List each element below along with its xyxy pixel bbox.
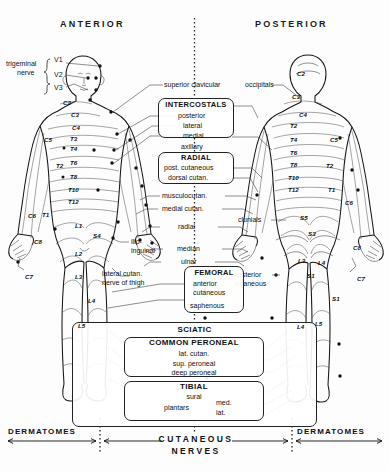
intercostals-title: INTERCOSTALS bbox=[162, 100, 230, 109]
dermatome-label-posterior-t12-8: T12 bbox=[288, 186, 299, 193]
intercostals-medial: medial bbox=[183, 132, 204, 140]
nerve-of-thigh-label: nerve of thigh bbox=[102, 279, 144, 287]
trigeminal-nerve-label-line2: nerve bbox=[17, 69, 35, 77]
dermatome-label-anterior-l4-19: L4 bbox=[88, 297, 95, 304]
dermatome-label-posterior-c3-1: C3 bbox=[292, 93, 300, 100]
dermatome-label-anterior-t4-4: T4 bbox=[70, 145, 77, 152]
dermatome-label-anterior-c5-9: C5 bbox=[44, 136, 52, 143]
common-peroneal-sup-peroneal: sup. peroneal bbox=[124, 360, 264, 368]
footer-dermatomes-right: DERMATOMES bbox=[297, 427, 365, 436]
radial-title: RADIAL bbox=[162, 153, 230, 162]
dermatome-label-posterior-t1-11: T1 bbox=[328, 186, 335, 193]
common-peroneal-deep-peroneal: deep peroneal bbox=[124, 369, 264, 377]
dermatome-cutaneous-nerve-diagram: ANTERIOR POSTERIOR trigeminal nerve V1 V… bbox=[0, 0, 389, 471]
dermatome-label-posterior-l5-20: L5 bbox=[315, 320, 322, 327]
trigeminal-nerve-label-line1: trigeminal bbox=[6, 60, 36, 68]
occipitals-label: occipitals bbox=[245, 81, 274, 89]
dermatome-label-anterior-t10-7: T10 bbox=[68, 186, 79, 193]
inguinal-label: inguinal bbox=[131, 247, 155, 255]
radial-dorsal-cutan: dorsal cutan. bbox=[168, 174, 208, 182]
trigeminal-branch-v1: V1 bbox=[54, 56, 63, 64]
dermatome-label-posterior-s1-18: S1 bbox=[307, 272, 315, 279]
dermatome-label-posterior-c5-9: C5 bbox=[330, 136, 338, 143]
dermatome-label-anterior-c2-0: C2 bbox=[63, 99, 71, 106]
dermatome-label-anterior-t8-6: T8 bbox=[70, 173, 77, 180]
dermatome-label-posterior-t10-7: T10 bbox=[288, 174, 299, 181]
dermatome-label-anterior-c7-14: C7 bbox=[25, 273, 33, 280]
clunials-label: clunials bbox=[238, 216, 261, 224]
dermatome-label-anterior-c6-11: C6 bbox=[28, 212, 36, 219]
dermatome-label-posterior-c7-14: C7 bbox=[357, 275, 365, 282]
footer-cutaneous-line2: NERVES bbox=[104, 446, 288, 457]
femoral-title: FEMORAL bbox=[186, 268, 242, 277]
femoral-anterior: anterior bbox=[193, 280, 217, 288]
dermatome-label-anterior-t6-5: T6 bbox=[70, 159, 77, 166]
tibial-title: TIBIAL bbox=[124, 382, 264, 391]
femoral-saphenous: saphenous bbox=[190, 302, 224, 310]
radial-nerve-label: radial bbox=[178, 223, 195, 231]
footer-dermatomes-left: DERMATOMES bbox=[8, 427, 76, 436]
dermatome-label-posterior-t2-10: T2 bbox=[326, 162, 333, 169]
trigeminal-branch-v2: V2 bbox=[54, 71, 63, 79]
dermatome-label-posterior-l3-17: L3 bbox=[298, 257, 305, 264]
dermatome-label-posterior-l4-19: L4 bbox=[318, 259, 325, 266]
dermatome-label-posterior-c2-0: C2 bbox=[297, 70, 305, 77]
dermatome-label-posterior-t2-3: T2 bbox=[290, 122, 297, 129]
ilio-label: ilio- bbox=[131, 238, 142, 246]
dermatome-label-anterior-l5-20: L5 bbox=[78, 322, 85, 329]
intercostals-lateral: lateral bbox=[183, 122, 202, 130]
axillary-label: axillary bbox=[181, 143, 203, 151]
dermatome-label-anterior-l2-17: L2 bbox=[75, 250, 82, 257]
dermatome-label-anterior-t1-12: T1 bbox=[42, 211, 49, 218]
dermatome-label-posterior-c4-2: C4 bbox=[299, 111, 307, 118]
dermatome-label-posterior-t8-6: T8 bbox=[290, 161, 297, 168]
dermatome-label-anterior-l1-15: L1 bbox=[75, 222, 82, 229]
sciatic-title: SCIATIC bbox=[72, 325, 317, 334]
musculocutan-label: musculocutan. bbox=[162, 192, 207, 200]
superior-clavicular-label: superior clavicular bbox=[164, 81, 220, 89]
dermatome-label-anterior-c3-1: C3 bbox=[71, 111, 79, 118]
dermatome-label-anterior-t3-3: T3 bbox=[70, 135, 77, 142]
dermatome-label-posterior-s1-22: S1 bbox=[332, 295, 340, 302]
plantars-med: med. bbox=[216, 399, 232, 407]
header-anterior: ANTERIOR bbox=[60, 19, 125, 29]
medial-cutan-label: medial cutan. bbox=[162, 205, 204, 213]
dermatome-label-posterior-c8-13: C8 bbox=[353, 244, 361, 251]
tibial-sural: sural bbox=[124, 393, 264, 401]
common-peroneal-title: COMMON PERONEAL bbox=[124, 338, 264, 347]
dermatome-label-posterior-c6-12: C6 bbox=[345, 199, 353, 206]
dermatome-label-anterior-t2-10: T2 bbox=[56, 162, 63, 169]
tibial-plantars-label: plantars bbox=[164, 404, 189, 412]
median-nerve-label: median bbox=[177, 245, 200, 253]
dermatome-label-posterior-t4-4: T4 bbox=[290, 136, 297, 143]
header-posterior: POSTERIOR bbox=[255, 19, 328, 29]
ulnar-nerve-label: ulnar bbox=[181, 258, 197, 266]
dermatome-label-anterior-c8-13: C8 bbox=[34, 238, 42, 245]
trigeminal-branch-v3: V3 bbox=[54, 84, 63, 92]
dermatome-label-anterior-c4-2: C4 bbox=[72, 124, 80, 131]
dermatome-label-posterior-s5-15: S5 bbox=[300, 214, 308, 221]
lateral-cutan-label: lateral cutan. bbox=[102, 270, 142, 278]
dermatome-label-anterior-s4-16: S4 bbox=[93, 232, 101, 239]
dermatome-label-posterior-t6-5: T6 bbox=[290, 149, 297, 156]
dermatome-label-anterior-l3-18: L3 bbox=[75, 273, 82, 280]
dermatome-label-anterior-t12-8: T12 bbox=[68, 198, 79, 205]
dermatome-label-posterior-l4-21: L4 bbox=[297, 323, 304, 330]
common-peroneal-lat-cutan: lat. cutan. bbox=[124, 350, 264, 358]
radial-post-cutaneous: post. cutaneous bbox=[164, 164, 213, 172]
intercostals-posterior: posterior bbox=[178, 112, 205, 120]
femoral-cutaneous: cutaneous bbox=[193, 289, 225, 297]
plantars-lat: lat. bbox=[216, 409, 225, 417]
trigeminal-brace bbox=[44, 59, 50, 94]
footer-cutaneous-line1: CUTANEOUS bbox=[104, 434, 288, 445]
dermatome-label-posterior-s3-16: S3 bbox=[308, 230, 316, 237]
